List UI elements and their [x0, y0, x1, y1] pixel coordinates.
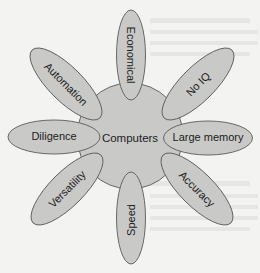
- center-label: Computers: [102, 132, 158, 144]
- petal-versatility: Versatility: [21, 143, 113, 235]
- petal-diligence-label: Diligence: [31, 130, 76, 142]
- petal-speed-label: Speed: [125, 204, 137, 236]
- petal-automation: Automation: [20, 38, 112, 130]
- petal-large-memory-label: Large memory: [173, 131, 244, 143]
- computer-characteristics-diagram: Economical No IQ Large memory Accuracy S…: [0, 0, 260, 273]
- petal-economical-label: Economical: [125, 27, 137, 84]
- petal-accuracy: Accuracy: [151, 143, 243, 235]
- petal-diligence: Diligence: [8, 120, 100, 154]
- petal-economical: Economical: [117, 10, 146, 100]
- petal-no-iq: No IQ: [152, 38, 244, 130]
- petal-speed: Speed: [117, 172, 146, 264]
- petal-large-memory: Large memory: [164, 121, 253, 155]
